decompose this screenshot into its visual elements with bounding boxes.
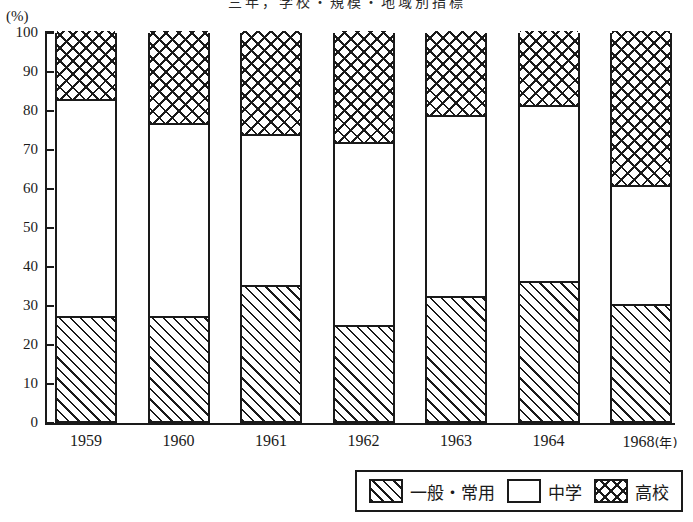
y-axis-tick-mark: [45, 422, 54, 424]
bar-segment-1961-一般・常用: [242, 285, 300, 422]
x-axis-label-1960: 1960: [129, 432, 229, 450]
bar-segment-1968-高校: [612, 31, 670, 187]
y-axis-tick-mark: [45, 305, 54, 307]
y-axis-tick-label: 30: [23, 296, 38, 315]
bar-segment-1959-中学: [57, 101, 115, 316]
bar-segment-1963-中学: [427, 117, 485, 296]
legend-swatch-solid-white-icon: [507, 479, 541, 503]
y-axis-tick-label: 90: [23, 62, 38, 81]
bar-1959[interactable]: [55, 33, 117, 423]
legend-item-高校[interactable]: 高校: [594, 479, 669, 504]
y-axis-tick-label: 70: [23, 140, 38, 159]
legend-item-一般・常用[interactable]: 一般・常用: [369, 479, 495, 504]
y-axis-tick-label: 40: [23, 257, 38, 276]
plot-area: [55, 33, 672, 423]
bar-segment-1959-一般・常用: [57, 316, 115, 421]
legend-swatch-diagonal-hatch-icon: [369, 479, 403, 503]
x-axis-label-1963: 1963: [406, 432, 506, 450]
x-axis-label-1964: 1964: [499, 432, 599, 450]
y-axis-tick-mark: [45, 149, 54, 151]
bar-segment-1960-中学: [150, 125, 208, 316]
bar-segment-1959-高校: [57, 31, 115, 101]
bar-1962[interactable]: [333, 33, 395, 423]
bar-segment-1963-一般・常用: [427, 296, 485, 421]
y-axis-tick-mark: [45, 383, 54, 385]
legend-item-中学[interactable]: 中学: [507, 479, 582, 504]
y-axis-tick-mark: [45, 32, 54, 34]
bar-segment-1961-高校: [242, 31, 300, 136]
bar-segment-1964-中学: [520, 107, 578, 281]
bar-1960[interactable]: [148, 33, 210, 423]
y-axis-tick-label: 100: [16, 23, 39, 42]
legend-label: 一般・常用: [410, 479, 495, 504]
y-axis-tick-label: 10: [23, 374, 38, 393]
y-axis-tick-mark: [45, 71, 54, 73]
x-axis-line: [45, 423, 675, 425]
y-axis-tick-label: 50: [23, 218, 38, 237]
bar-segment-1964-一般・常用: [520, 281, 578, 421]
bar-1963[interactable]: [425, 33, 487, 423]
x-axis-label-1961: 1961: [221, 432, 321, 450]
legend-label: 高校: [635, 479, 669, 504]
bar-segment-1968-一般・常用: [612, 304, 670, 421]
bar-segment-1962-中学: [335, 144, 393, 325]
y-axis-tick-label: 80: [23, 101, 38, 120]
bar-segment-1962-高校: [335, 31, 393, 144]
bar-segment-1960-高校: [150, 31, 208, 125]
bar-1964[interactable]: [518, 33, 580, 423]
y-axis-tick-mark: [45, 188, 54, 190]
legend-label: 中学: [548, 479, 582, 504]
y-axis-tick-mark: [45, 227, 54, 229]
y-axis-tick-label: 0: [31, 413, 39, 432]
y-axis-tick-mark: [45, 344, 54, 346]
x-axis-label-1968: 1968(年): [600, 432, 693, 451]
y-axis-tick-mark: [45, 110, 54, 112]
bar-segment-1960-一般・常用: [150, 316, 208, 421]
legend-swatch-cross-hatch-icon: [594, 479, 628, 503]
chart-legend: 一般・常用中学高校: [355, 470, 683, 512]
x-axis-label-1962: 1962: [314, 432, 414, 450]
y-axis-tick-mark: [45, 266, 54, 268]
y-axis-tick-label: 20: [23, 335, 38, 354]
x-axis-unit-label: (年): [654, 435, 677, 450]
y-axis-tick-label: 60: [23, 179, 38, 198]
bar-segment-1962-一般・常用: [335, 325, 393, 421]
bar-1968[interactable]: [610, 33, 672, 423]
chart-title: 三年，学校・規模・地域別指標: [0, 0, 693, 11]
x-axis-label-1959: 1959: [36, 432, 136, 450]
bar-segment-1964-高校: [520, 31, 578, 107]
bar-segment-1963-高校: [427, 31, 485, 117]
bar-segment-1968-中学: [612, 187, 670, 304]
bar-1961[interactable]: [240, 33, 302, 423]
bar-segment-1961-中学: [242, 136, 300, 284]
